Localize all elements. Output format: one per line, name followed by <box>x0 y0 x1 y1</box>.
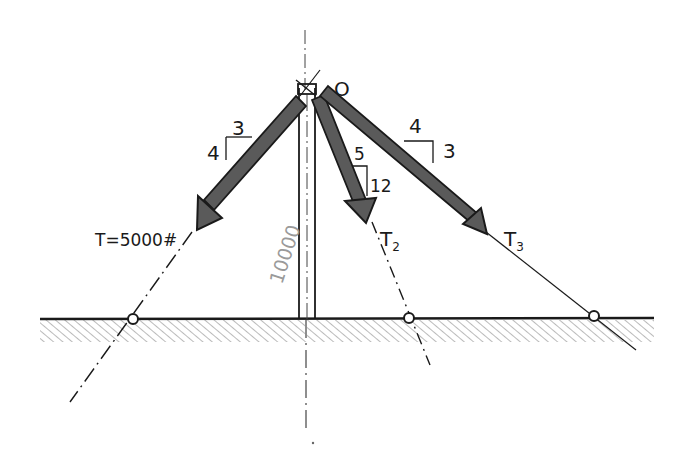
anchor-point-3 <box>589 311 599 321</box>
t1-tension-label: T=5000# <box>94 230 177 250</box>
t2-slope-run: 5 <box>354 144 365 164</box>
t2-label: T2 <box>379 227 400 254</box>
point-label-o: O <box>334 77 350 101</box>
t1-slope-run: 3 <box>232 116 245 140</box>
statics-diagram: O 3 4 5 12 4 3 T=5000# T2 T3 10000 <box>0 0 689 471</box>
t3-slope-rise: 3 <box>443 139 456 163</box>
anchor-point-2 <box>404 313 414 323</box>
t3-label: T3 <box>503 227 524 254</box>
anchor-point-1 <box>128 314 138 324</box>
vertical-centerline <box>305 30 314 444</box>
t3-slope-run: 4 <box>409 114 422 138</box>
t2-slope-rise: 12 <box>370 176 392 196</box>
t1-slope-rise: 4 <box>207 141 220 165</box>
diagram-canvas: O 3 4 5 12 4 3 T=5000# T2 T3 10000 <box>0 0 689 471</box>
